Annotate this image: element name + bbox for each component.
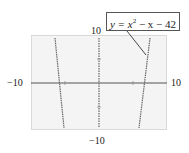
y-max-label: 10: [91, 26, 101, 36]
equation-label: y = x2 − x − 42: [106, 12, 180, 31]
x-max-label: 10: [171, 78, 181, 88]
x-min-label: −10: [7, 78, 23, 88]
annotation-leader-line: [127, 31, 146, 55]
y-min-label: −10: [89, 136, 105, 146]
